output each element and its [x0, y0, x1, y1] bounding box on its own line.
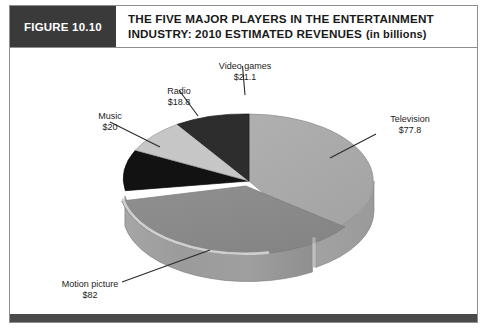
- callout-music: Music $20: [80, 111, 140, 133]
- callout-television-value: $77.8: [372, 125, 448, 136]
- callout-video-games-value: $21.1: [206, 72, 284, 83]
- callout-television-category: Television: [372, 114, 448, 125]
- pie-chart-area: Video games $21.1 Radio $18.8 Music $20 …: [10, 48, 477, 308]
- callout-music-category: Music: [80, 111, 140, 122]
- callout-video-games-category: Video games: [206, 61, 284, 72]
- figure-title-line-2: INDUSTRY: 2010 ESTIMATED REVENUES(in bil…: [128, 26, 471, 42]
- callout-motion-picture: Motion picture $82: [42, 279, 138, 301]
- callout-radio-value: $18.8: [149, 97, 209, 108]
- figure-title-line-2-main: INDUSTRY: 2010 ESTIMATED REVENUES: [128, 27, 362, 40]
- figure-title-line-2-sub: (in billions): [366, 28, 427, 40]
- figure-header: FIGURE 10.10 THE FIVE MAJOR PLAYERS IN T…: [10, 6, 477, 48]
- callout-radio-category: Radio: [149, 86, 209, 97]
- figure-footer-bar: [10, 314, 477, 322]
- figure-number-badge: FIGURE 10.10: [10, 6, 116, 47]
- figure-frame: FIGURE 10.10 THE FIVE MAJOR PLAYERS IN T…: [9, 5, 478, 323]
- callout-music-value: $20: [80, 122, 140, 133]
- pie-explode-gap: [312, 237, 315, 267]
- figure-title-line-1: THE FIVE MAJOR PLAYERS IN THE ENTERTAINM…: [128, 11, 471, 26]
- callout-radio: Radio $18.8: [149, 86, 209, 108]
- figure-title: THE FIVE MAJOR PLAYERS IN THE ENTERTAINM…: [116, 6, 477, 47]
- pie-chart-graphic: [10, 48, 477, 308]
- callout-motion-picture-value: $82: [42, 290, 138, 301]
- callout-video-games: Video games $21.1: [206, 61, 284, 83]
- callout-television: Television $77.8: [372, 114, 448, 136]
- callout-motion-picture-category: Motion picture: [42, 279, 138, 290]
